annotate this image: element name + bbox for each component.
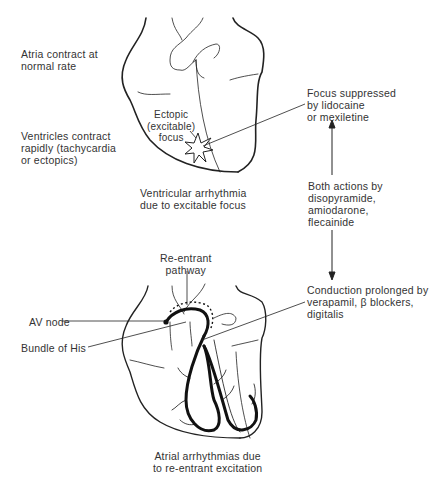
diagram-artwork: [0, 0, 446, 480]
bottom-panel-title: Atrial arrhythmias due to re-entrant exc…: [153, 450, 262, 474]
atria-label: Atria contract at normal rate: [21, 48, 98, 72]
focus-pointer-line: [203, 104, 305, 146]
av-node-dot: [163, 319, 168, 324]
top-panel-title: Ventricular arrhythmia due to excitable …: [140, 187, 247, 211]
ventricles-label: Ventricles contract rapidly (tachycardia…: [21, 130, 116, 166]
ectopic-focus-label: Ectopic (excitable) focus: [147, 109, 195, 144]
both-actions-label: Both actions by disopyramide, amiodarone…: [308, 180, 383, 228]
bundle-of-his-label: Bundle of His: [21, 342, 86, 354]
reentrant-pathway-label: Re-entrant pathway: [160, 252, 212, 276]
av-node-label: AV node: [29, 316, 70, 328]
conduction-pointer: [202, 302, 305, 340]
conduction-prolonged-label: Conduction prolonged by verapamil, β blo…: [307, 284, 428, 320]
focus-suppressed-label: Focus suppressed by lidocaine or mexilet…: [307, 87, 396, 123]
